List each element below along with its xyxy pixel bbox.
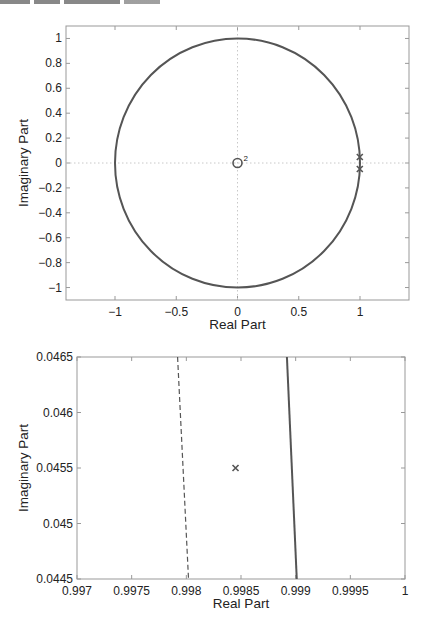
unit-circle-segment [287,357,297,579]
x-tick-label: 0.9995 [332,584,369,598]
zoomed-pole-plot: 0.9970.99750.9980.99850.9990.999510.0465… [0,0,431,630]
x-tick-label: 0.997 [62,584,92,598]
x-tick-label: 1 [402,584,409,598]
x-tick-label: 0.999 [281,584,311,598]
y-tick-label: 0.0465 [36,350,73,364]
y-tick-label: 0.045 [43,517,73,531]
x-tick-label: 0.998 [171,584,201,598]
dashed-boundary-line [178,357,189,579]
x-axis-label: Real Part [213,596,270,611]
y-tick-label: 0.0445 [36,572,73,586]
y-axis-label: Imaginary Part [16,424,31,512]
y-tick-label: 0.046 [43,406,73,420]
pole-x-marker [233,465,239,471]
bottom-plot-frame [77,357,405,579]
x-tick-label: 0.9975 [113,584,150,598]
y-tick-label: 0.0455 [36,461,73,475]
